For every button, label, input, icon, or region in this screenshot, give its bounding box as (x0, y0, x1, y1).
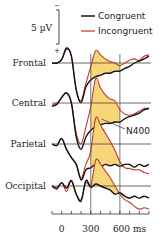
erp-figure: − + 5 µV Congruent Incongruent Frontal C… (0, 0, 165, 240)
legend-label-incongruent: Incongruent (98, 26, 153, 36)
n400-fill-frontal (91, 51, 120, 80)
scale-bar-negative-sign: − (54, 2, 60, 10)
site-label-frontal: Frontal (12, 58, 46, 68)
scale-bar-positive-sign: + (54, 47, 60, 55)
x-tick-label-300: 300 (82, 224, 99, 234)
site-label-central: Central (12, 98, 46, 108)
n400-fill-occipital (91, 160, 120, 194)
site-label-occipital: Occipital (5, 181, 46, 191)
x-tick-label-600: 600 ms (113, 224, 147, 234)
site-label-parietal: Parietal (11, 139, 47, 149)
x-tick-label-0: 0 (59, 224, 65, 234)
legend-label-congruent: Congruent (98, 11, 146, 21)
time-axis: 0 300 600 ms (52, 211, 149, 234)
scale-bar: − + 5 µV (31, 2, 60, 55)
scale-bar-label: 5 µV (31, 23, 52, 33)
n400-annotation: N400 (126, 126, 150, 136)
legend: Congruent Incongruent (81, 11, 153, 36)
